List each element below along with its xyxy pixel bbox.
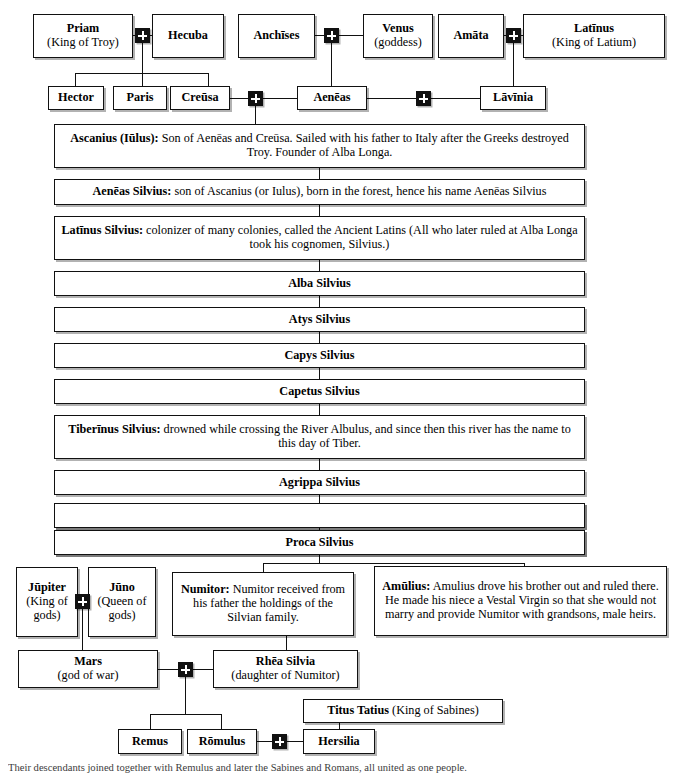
lineage-box-aventinus-silvius: x [54, 503, 585, 528]
marriage-node-creusa-aeneas [248, 91, 263, 106]
sibling-bar-twins [150, 714, 221, 715]
connector-aeneas-silvius-next [319, 205, 320, 216]
person-name: Latīnus [574, 21, 614, 35]
lineage-box-agrippa-silvius: Agrippa Silvius [54, 470, 585, 495]
person-box-paris: Paris [113, 86, 167, 110]
person-box-creusa: Creūsa [170, 86, 230, 110]
person-detail: (King of Troy) [47, 35, 119, 49]
person-detail: (Queen of gods) [97, 594, 146, 622]
person-detail: (goddess) [374, 35, 421, 49]
lineage-box-aeneas-silvius: Aenēas Silvius: son of Ascanius (or Iulu… [54, 179, 585, 205]
person-name: Priam [67, 21, 100, 35]
connector-creusa-aeneas [230, 98, 297, 99]
lineage-box-alba-silvius: Alba Silvius [54, 271, 585, 296]
person-name: Aenēas [313, 90, 350, 104]
lineage-name: Agrippa Silvius [279, 475, 360, 489]
connector-capetus-next [319, 404, 320, 415]
lineage-desc: son of Ascanius (or Iulus), born in the … [171, 184, 546, 198]
person-box-mars: Mars (god of war) [18, 650, 158, 688]
connector-gods-to-mars [82, 609, 83, 650]
person-detail: (King of Sabines) [389, 703, 479, 717]
marriage-node-priam-hecuba [135, 28, 150, 43]
lineage-name: Tiberīnus Silvius: [68, 422, 160, 436]
connector-latinus-silvius-next [319, 260, 320, 271]
marriage-node-romulus-hersilia [272, 734, 287, 749]
sibling-bar-proca-sons [263, 563, 524, 564]
lineage-name: Numitor: [181, 582, 230, 596]
person-name: Jūpiter [28, 580, 66, 594]
connector-numitor-to-rhea [286, 636, 287, 650]
person-box-juno: Jūno (Queen of gods) [88, 567, 156, 637]
marriage-node-jupiter-juno [75, 594, 90, 609]
person-name: Remus [132, 734, 168, 748]
person-name: Hecuba [168, 28, 208, 42]
lineage-box-amulius: Amūlius: Amulius drove his brother out a… [374, 566, 667, 636]
person-name: Rōmulus [199, 734, 246, 748]
person-box-amata: Amāta [438, 14, 504, 58]
person-name: Amāta [453, 28, 488, 42]
connector-to-paris [142, 73, 143, 87]
person-box-anchises: Anchīses [238, 14, 315, 58]
person-name: Anchīses [253, 28, 299, 42]
lineage-name: Latīnus Silvius: [61, 223, 143, 237]
person-name: Rhēa Silvia [256, 654, 315, 668]
person-detail: (god of war) [58, 668, 119, 682]
person-box-aeneas: Aenēas [297, 86, 367, 110]
figure-caption: Their descendants joined together with R… [8, 762, 682, 775]
connector-anchises-venus [315, 35, 363, 36]
lineage-box-proca-silvius: Proca Silvius [54, 530, 585, 555]
lineage-name: Alba Silvius [288, 276, 351, 290]
person-name: Hersilia [318, 734, 359, 748]
lineage-desc: drowned while crossing the River Albulus… [161, 422, 571, 450]
lineage-name: Aenēas Silvius: [93, 184, 172, 198]
connector-proca-down [319, 555, 320, 563]
genealogy-diagram: Priam (King of Troy) Hecuba Anchīses Ven… [0, 0, 690, 776]
connector-ascanius-next [319, 168, 320, 179]
lineage-box-numitor: Numitor: Numitor received from his fathe… [172, 572, 354, 636]
lineage-desc: Son of Aenēas and Creūsa. Sailed with hi… [159, 131, 569, 159]
connector-to-romulus [221, 714, 222, 729]
person-box-hersilia: Hersilia [303, 729, 375, 754]
person-box-venus: Venus (goddess) [363, 14, 433, 58]
lineage-desc: colonizer of many colonies, called the A… [143, 223, 578, 251]
lineage-box-atys-silvius: Atys Silvius [54, 307, 585, 332]
connector-to-remus [150, 714, 151, 729]
person-name: Creūsa [181, 90, 218, 104]
lineage-name: Ascanius (Iūlus): [70, 131, 158, 145]
connector-agrippa-next [319, 495, 320, 503]
person-name: Hector [58, 90, 94, 104]
connector-latinus-to-lavinia [513, 43, 514, 86]
person-name: Paris [126, 90, 153, 104]
lineage-name: Capetus Silvius [279, 384, 359, 398]
connector-parents-to-twins [185, 677, 186, 714]
connector-to-numitor [263, 563, 264, 572]
person-name: Titus Tatius [327, 703, 389, 717]
person-name: Mars [74, 654, 102, 668]
connector-priam-children-drop [142, 43, 143, 73]
person-box-titus-tatius: Titus Tatius (King of Sabines) [303, 699, 503, 723]
lineage-name: Capys Silvius [284, 348, 354, 362]
person-detail: (King of gods) [26, 594, 68, 622]
person-box-priam: Priam (King of Troy) [33, 14, 133, 58]
person-name: Venus [382, 21, 413, 35]
marriage-node-aeneas-lavinia [416, 91, 431, 106]
marriage-node-mars-rhea [178, 662, 193, 677]
lineage-box-tiberinus-silvius: Tiberīnus Silvius: drowned while crossin… [54, 415, 585, 459]
person-name: Lāvīnia [493, 90, 533, 104]
marriage-node-anchises-venus [324, 28, 339, 43]
connector-venus-to-aeneas [331, 43, 332, 86]
marriage-node-amata-latinus [506, 28, 521, 43]
connector-to-ascanius [255, 106, 256, 124]
connector-tiberinus-next [319, 459, 320, 470]
lineage-box-capys-silvius: Capys Silvius [54, 343, 585, 368]
person-box-lavinia: Lāvīnia [480, 86, 546, 110]
lineage-name: Atys Silvius [289, 312, 350, 326]
connector-capys-next [319, 368, 320, 379]
lineage-name: Amūlius: [382, 579, 430, 593]
person-box-hector: Hector [48, 86, 104, 110]
lineage-box-capetus-silvius: Capetus Silvius [54, 379, 585, 404]
connector-to-creusa [208, 73, 209, 87]
person-name: Jūno [109, 580, 135, 594]
lineage-box-ascanius: Ascanius (Iūlus): Son of Aenēas and Creū… [54, 124, 585, 168]
connector-atys-next [319, 332, 320, 343]
